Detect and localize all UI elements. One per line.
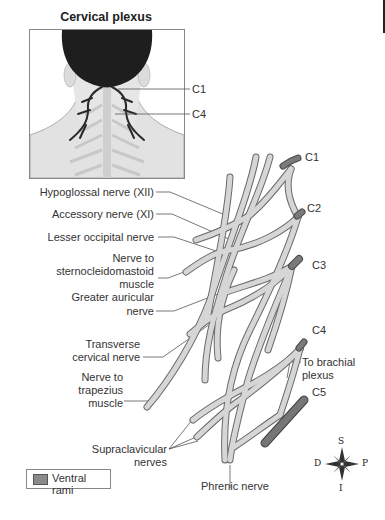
compass-rose-icon xyxy=(0,0,385,520)
compass-proximal: P xyxy=(362,458,368,468)
compass-inferior: I xyxy=(339,483,343,493)
compass-distal: D xyxy=(314,458,321,468)
compass-superior: S xyxy=(338,436,344,446)
